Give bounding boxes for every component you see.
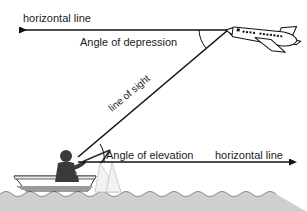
elevation-depression-diagram: horizontal line Angle of depression line… (0, 0, 307, 212)
diagram-canvas: horizontal line Angle of depression line… (0, 0, 307, 212)
label-horizontal-line-bottom: horizontal line (215, 149, 283, 161)
label-angle-of-depression: Angle of depression (80, 36, 177, 48)
label-horizontal-line-top: horizontal line (23, 12, 91, 24)
label-angle-of-elevation: Angle of elevation (106, 149, 193, 161)
